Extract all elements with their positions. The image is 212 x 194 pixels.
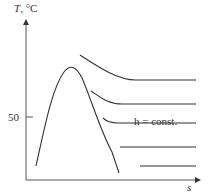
ts-diagram: [0, 0, 212, 194]
h-const-line-2: [91, 91, 196, 104]
h-const-annotation: h = const.: [134, 115, 177, 127]
y-tick-label: 50: [8, 111, 19, 123]
y-axis-label: T, °C: [14, 2, 37, 14]
h-const-line-1: [80, 55, 196, 80]
x-axis-label: s: [187, 181, 191, 193]
